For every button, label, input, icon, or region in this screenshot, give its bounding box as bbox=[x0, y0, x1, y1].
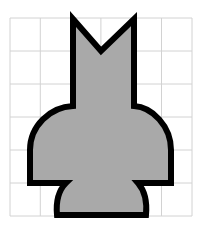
figure-canvas bbox=[0, 0, 202, 230]
figure-svg bbox=[0, 0, 202, 230]
